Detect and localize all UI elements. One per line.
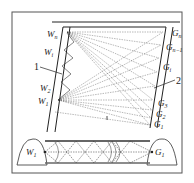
callout-2: 2 xyxy=(176,75,181,86)
bottom-label-w1: W1 xyxy=(26,147,37,158)
callout-1-leader xyxy=(40,67,62,74)
label-g1: G1 xyxy=(154,119,164,130)
bottom-label-g1: G1 xyxy=(155,147,165,158)
callout-1: 1 xyxy=(34,61,39,72)
g1-target-point xyxy=(151,151,153,153)
label-gn-1: Gn−1 xyxy=(166,42,183,53)
label-w1: W1 xyxy=(38,96,49,107)
diagram: Wn Wi W2 W1 1 Gn Gn−1 Gi G3 G2 G1 2 W1 G… xyxy=(0,0,194,183)
label-wn: Wn xyxy=(47,29,58,40)
label-g3: G3 xyxy=(158,98,168,109)
label-w2: W2 xyxy=(40,83,51,94)
label-wi: Wi xyxy=(44,47,54,58)
label-gi: Gi xyxy=(163,62,172,73)
left-wall xyxy=(47,27,70,132)
w1-source-point xyxy=(44,151,46,153)
ray-fan xyxy=(55,32,163,125)
label-gn: Gn xyxy=(172,28,182,39)
